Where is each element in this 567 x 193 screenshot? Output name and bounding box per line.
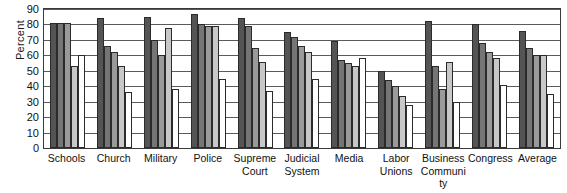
y-tick-label: 40 (9, 80, 39, 92)
y-tick-label: 90 (9, 3, 39, 15)
y-tick-label: 60 (9, 49, 39, 61)
bar (486, 52, 493, 148)
bar (399, 96, 406, 149)
bar (104, 46, 111, 148)
bar (378, 71, 385, 148)
bar (57, 23, 64, 148)
bar (305, 52, 312, 148)
y-tick-label: 30 (9, 96, 39, 108)
bar (298, 46, 305, 148)
x-tick-label: Schools (43, 152, 90, 192)
y-tick-label: 20 (9, 111, 39, 123)
bar (78, 55, 85, 148)
bar (446, 62, 453, 148)
bar-group (185, 9, 232, 148)
bar (198, 24, 205, 148)
bar (144, 17, 151, 148)
bar-group (279, 9, 326, 148)
bar-group (513, 9, 560, 148)
bar (312, 79, 319, 149)
bar (432, 66, 439, 148)
y-tick-label: 10 (9, 127, 39, 139)
bar (338, 60, 345, 148)
bar (345, 63, 352, 148)
bar-group (91, 9, 138, 148)
bar (252, 48, 259, 148)
bar (238, 18, 245, 148)
bar-group (44, 9, 91, 148)
bar (165, 28, 172, 148)
bar (392, 86, 399, 148)
bar (151, 40, 158, 148)
bar (453, 102, 460, 148)
bar (479, 43, 486, 148)
bar (519, 31, 526, 148)
bar (266, 91, 273, 148)
y-tick-label: 0 (9, 142, 39, 154)
bar (205, 26, 212, 148)
plot-outer: 0102030405060708090 (43, 8, 561, 149)
bar (526, 48, 533, 148)
x-tick-label: Police (184, 152, 231, 192)
bar-group (466, 9, 513, 148)
bar (245, 26, 252, 148)
bar (212, 26, 219, 148)
x-tick-label: Media (326, 152, 373, 192)
bar (64, 23, 71, 148)
bar-group (419, 9, 466, 148)
x-tick-label: SupremeCourt (231, 152, 278, 192)
x-tick-label: Congress (467, 152, 514, 192)
bar (385, 80, 392, 148)
bar (219, 79, 226, 149)
x-tick-label: Average (514, 152, 561, 192)
bar (406, 105, 413, 148)
bar (472, 24, 479, 148)
y-tick-label: 70 (9, 34, 39, 46)
bar (259, 62, 266, 148)
bar (50, 23, 57, 148)
bar (125, 92, 132, 148)
bar-chart: Percent 0102030405060708090 SchoolsChurc… (0, 0, 567, 193)
x-tick-label: Military (137, 152, 184, 192)
bar (493, 58, 500, 148)
bar (291, 37, 298, 148)
plot-area: 0102030405060708090 (43, 8, 561, 149)
x-tick-label: JudicialSystem (278, 152, 325, 192)
bar (331, 41, 338, 148)
bar-group (138, 9, 185, 148)
bar (540, 55, 547, 148)
x-tick-label: LaborUnions (373, 152, 420, 192)
bar-group (372, 9, 419, 148)
bar (284, 32, 291, 148)
bar-group (325, 9, 372, 148)
bar (172, 89, 179, 148)
bar (111, 52, 118, 148)
y-tick-label: 50 (9, 65, 39, 77)
bar (533, 55, 540, 148)
bar (439, 89, 446, 148)
bar-groups (44, 9, 560, 148)
x-tick-label: Church (90, 152, 137, 192)
bar (500, 85, 507, 148)
bar (118, 66, 125, 148)
y-tick-label: 80 (9, 18, 39, 30)
bar (191, 14, 198, 148)
bar (425, 21, 432, 148)
x-axis-labels: SchoolsChurchMilitaryPoliceSupremeCourtJ… (43, 152, 561, 192)
bar (547, 94, 554, 148)
x-tick-label: BusinessCommunity (420, 152, 467, 192)
bar (71, 66, 78, 148)
bar (158, 55, 165, 148)
bar (359, 58, 366, 148)
bar (352, 66, 359, 148)
bar-group (232, 9, 279, 148)
bar (97, 18, 104, 148)
